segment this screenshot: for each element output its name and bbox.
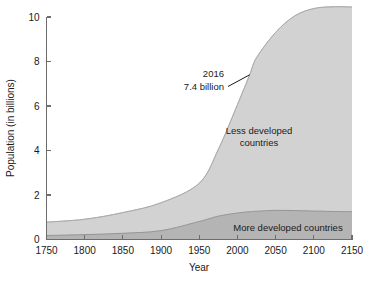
y-axis-tick-labels: 0246810 — [28, 12, 40, 246]
y-axis-tick-label: 8 — [34, 56, 40, 67]
y-axis-ticks — [47, 17, 52, 240]
x-axis-tick-label: 1800 — [74, 245, 97, 256]
x-axis-tick-label: 1850 — [112, 245, 135, 256]
y-axis-tick-label: 0 — [34, 234, 40, 245]
x-axis-tick-label: 1900 — [150, 245, 173, 256]
population-growth-chart-figure: 0246810 17501800185019001950200020502100… — [0, 0, 371, 288]
y-axis-tick-label: 6 — [34, 101, 40, 112]
x-axis-tick-label: 2150 — [341, 245, 364, 256]
x-axis-tick-label: 1750 — [35, 245, 58, 256]
x-axis-tick-label: 2050 — [265, 245, 288, 256]
population-2016-callout: 2016 7.4 billion — [184, 68, 250, 92]
y-axis-tick-label: 4 — [34, 145, 40, 156]
y-axis-title: Population (in billions) — [5, 79, 16, 177]
area-bands — [47, 7, 353, 240]
x-axis-tick-label: 2000 — [226, 245, 249, 256]
x-axis-tick-label: 2100 — [303, 245, 326, 256]
x-axis-title: Year — [189, 262, 210, 273]
area-band-less-developed — [47, 7, 353, 240]
band-label-less-developed-line2: countries — [240, 137, 279, 148]
y-axis-tick-label: 10 — [28, 12, 40, 23]
chart-canvas: 0246810 17501800185019001950200020502100… — [0, 0, 371, 288]
band-label-less-developed-line1: Less developed — [226, 125, 293, 136]
x-axis-tick-label: 1950 — [188, 245, 211, 256]
callout-year: 2016 — [203, 68, 224, 79]
band-label-more-developed: More developed countries — [233, 222, 343, 233]
callout-value: 7.4 billion — [184, 81, 224, 92]
x-axis-tick-labels: 175018001850190019502000205021002150 — [35, 245, 363, 256]
y-axis-tick-label: 2 — [34, 190, 40, 201]
